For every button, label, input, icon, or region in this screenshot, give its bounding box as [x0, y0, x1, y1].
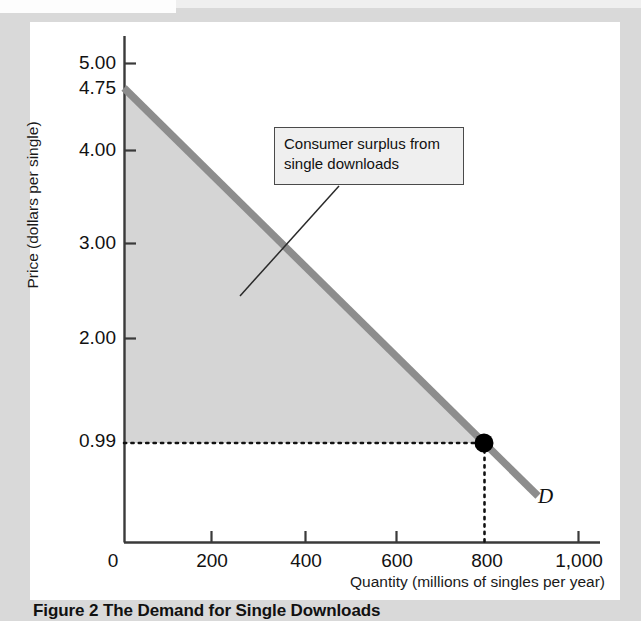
y-tick-label-2: 4.00 — [44, 139, 116, 161]
figure-caption: Figure 2 The Demand for Single Downloads — [33, 601, 380, 621]
x-tick-label-5: 1,000 — [544, 550, 614, 572]
y-tick-label-3: 3.00 — [44, 232, 116, 254]
callout-line-2: single downloads — [284, 154, 455, 174]
callout-line-1: Consumer surplus from — [284, 134, 455, 154]
y-tick-label-0: 5.00 — [44, 52, 116, 74]
y-tick-label-5: 0.99 — [44, 430, 116, 452]
x-tick-label-0: 0 — [78, 550, 148, 572]
y-tick-label-4: 2.00 — [44, 327, 116, 349]
equilibrium-point-marker[interactable] — [475, 434, 494, 453]
x-axis-title: Quantity (millions of singles per year) — [350, 573, 605, 591]
x-tick-label-3: 600 — [362, 550, 432, 572]
y-tick-label-1: 4.75 — [44, 77, 116, 99]
y-axis-title: Price (dollars per single) — [24, 110, 42, 300]
x-tick-label-2: 400 — [271, 550, 341, 572]
x-tick-label-4: 800 — [452, 550, 522, 572]
x-tick-label-1: 200 — [177, 550, 247, 572]
consumer-surplus-callout: Consumer surplus from single downloads — [274, 127, 464, 185]
demand-curve-label: D — [538, 484, 553, 509]
x-axis-ticks — [212, 531, 579, 542]
